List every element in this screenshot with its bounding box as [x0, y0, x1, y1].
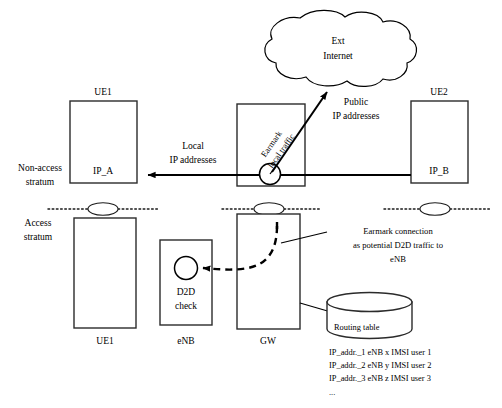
- enb-label: eNB: [177, 336, 194, 346]
- non-access-stratum-line1: Non-access: [18, 163, 62, 173]
- ue1-top-title: UE1: [94, 87, 112, 97]
- ue2-top-node[interactable]: UE2 IP_B: [411, 87, 468, 183]
- ue1-top-node[interactable]: UE1 IP_A: [70, 87, 137, 183]
- routing-table-ellipsis: ...: [329, 388, 335, 397]
- stratum-divider-ue2: [384, 203, 490, 215]
- public-ip-label-line1: Public: [344, 97, 368, 107]
- ue1-bottom-node[interactable]: UE1: [74, 218, 136, 346]
- ue2-top-ip-label: IP_B: [429, 166, 449, 176]
- network-architecture-diagram: Ext Internet Non-access stratum Access s…: [0, 0, 502, 408]
- annotation-line3: eNB: [390, 254, 406, 264]
- gw-label: GW: [260, 336, 276, 346]
- earmark-connection-annotation: Earmark connection as potential D2D traf…: [353, 226, 443, 264]
- routing-table-node[interactable]: Routing table: [327, 293, 412, 339]
- ue1-bottom-label: UE1: [96, 336, 114, 346]
- ext-internet-cloud: Ext Internet: [265, 10, 417, 86]
- non-access-stratum-line2: stratum: [26, 177, 55, 187]
- d2d-label-line1: D2D: [177, 287, 196, 297]
- routing-table-row: IP_addr._3 eNB z IMSI user 3: [329, 374, 431, 383]
- stratum-divider-ue1: [48, 203, 158, 215]
- ue1-top-ip-label: IP_A: [93, 166, 113, 176]
- access-stratum-line1: Access: [25, 218, 52, 228]
- access-stratum-label: Access stratum: [24, 218, 53, 242]
- access-stratum-line2: stratum: [24, 232, 53, 242]
- d2d-label-line2: check: [175, 301, 197, 311]
- routing-table-entries: IP_addr._1 eNB x IMSI user 1 IP_addr._2 …: [329, 348, 431, 397]
- routing-table-cylinder-top: [327, 293, 412, 312]
- non-access-stratum-label: Non-access stratum: [18, 163, 62, 187]
- d2d-check-circle[interactable]: [175, 257, 198, 280]
- public-ip-label-line2: IP addresses: [333, 111, 380, 121]
- cloud-label-line2: Internet: [323, 51, 353, 61]
- local-ip-label-line1: Local: [182, 141, 204, 151]
- gw-node[interactable]: GW: [237, 214, 300, 346]
- routing-table-row: IP_addr._2 eNB y IMSI user 2: [329, 361, 431, 370]
- local-ip-label-line2: IP addresses: [170, 155, 217, 165]
- routing-table-title: Routing table: [334, 323, 380, 332]
- ue2-top-title: UE2: [430, 87, 448, 97]
- ue1-bottom-box[interactable]: [74, 218, 136, 328]
- gw-box[interactable]: [237, 214, 300, 329]
- annotation-line2: as potential D2D traffic to: [353, 240, 443, 250]
- routing-table-row: IP_addr._1 eNB x IMSI user 1: [329, 348, 431, 357]
- diagram-canvas: Ext Internet Non-access stratum Access s…: [0, 0, 502, 408]
- cloud-label-line1: Ext: [331, 36, 345, 46]
- enb-box[interactable]: [160, 240, 212, 325]
- annotation-line1: Earmark connection: [363, 226, 433, 236]
- enb-node[interactable]: D2D check eNB: [160, 240, 212, 346]
